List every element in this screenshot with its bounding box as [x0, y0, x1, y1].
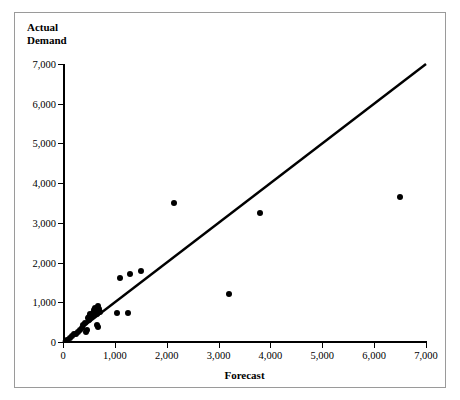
y-tick-label: 6,000	[32, 98, 56, 109]
y-tick-label: 3,000	[32, 217, 56, 228]
x-tick-label: 7,000	[414, 350, 438, 361]
y-tick-label: 0	[51, 337, 56, 348]
x-tick-label: 4,000	[259, 350, 283, 361]
y-tick-label: 2,000	[32, 257, 56, 268]
y-tick	[58, 302, 63, 303]
x-tick-label: 3,000	[207, 350, 231, 361]
y-tick	[58, 143, 63, 144]
x-tick	[219, 343, 220, 348]
x-tick-label: 5,000	[310, 350, 334, 361]
data-point	[95, 324, 101, 330]
x-tick	[115, 343, 116, 348]
x-tick	[322, 343, 323, 348]
x-tick	[374, 343, 375, 348]
x-tick	[270, 343, 271, 348]
data-point	[138, 268, 144, 274]
y-tick	[58, 183, 63, 184]
y-tick	[58, 64, 63, 65]
x-tick-label: 6,000	[362, 350, 386, 361]
x-tick	[426, 343, 427, 348]
x-tick	[167, 343, 168, 348]
reference-line	[63, 64, 426, 342]
y-tick-label: 5,000	[32, 138, 56, 149]
x-axis-label: Forecast	[224, 369, 264, 381]
x-tick	[63, 343, 64, 348]
y-tick	[58, 104, 63, 105]
y-tick-label: 1,000	[32, 297, 56, 308]
y-tick	[58, 263, 63, 264]
x-tick-label: 0	[60, 350, 65, 361]
y-tick-label: 7,000	[32, 59, 56, 70]
data-point	[257, 210, 263, 216]
y-tick-label: 4,000	[32, 178, 56, 189]
chart-figure: Actual Demand 01,0002,0003,0004,0005,000…	[14, 12, 446, 388]
plot-area: 01,0002,0003,0004,0005,0006,0007,000 01,…	[63, 64, 426, 342]
x-tick-label: 2,000	[155, 350, 179, 361]
y-tick	[58, 223, 63, 224]
y-axis-title: Actual Demand	[27, 21, 67, 47]
x-tick-label: 1,000	[103, 350, 127, 361]
